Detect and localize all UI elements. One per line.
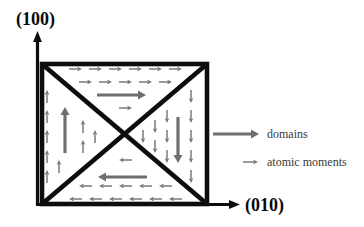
atomic-moment-arrow xyxy=(119,80,132,84)
atomic-moment-arrow xyxy=(79,80,92,84)
atomic-moment-arrow xyxy=(165,110,169,123)
atomic-moment-arrow xyxy=(57,160,61,173)
atomic-moment-arrow xyxy=(119,106,132,110)
atomic-moment-arrow xyxy=(89,197,102,201)
atomic-moment-arrow xyxy=(139,184,152,188)
atomic-moment-arrow xyxy=(149,67,162,71)
domain-direction-arrow xyxy=(98,173,147,182)
magnetic-domain-diagram: (100) (010) domains atomic moments xyxy=(0,0,364,227)
atomic-moment-arrow xyxy=(189,110,193,123)
atomic-moment-arrow xyxy=(159,184,172,188)
atomic-moment-arrow xyxy=(79,184,92,188)
atomic-moment-arrow xyxy=(153,140,157,153)
atomic-moment-arrow xyxy=(81,140,85,153)
axis-010-arrow xyxy=(36,200,240,209)
atomic-moment-arrow xyxy=(119,184,132,188)
atomic-moment-arrow xyxy=(89,67,102,71)
atomic-moment-arrow xyxy=(189,150,193,163)
atomic-moment-arrow xyxy=(99,80,112,84)
atomic-moment-arrow xyxy=(81,120,85,133)
atomic-moment-arrow xyxy=(45,170,49,183)
atomic-moment-arrow xyxy=(93,130,97,143)
atomic-moment-arrow xyxy=(129,197,142,201)
atomic-moment-arrow xyxy=(119,158,132,162)
atomic-moment-arrow xyxy=(169,197,182,201)
atomic-moment-arrow xyxy=(153,120,157,133)
atomic-moment-arrow xyxy=(141,130,145,143)
atomic-moment-arrow xyxy=(109,67,122,71)
figure-canvas: (100) (010) domains atomic moments xyxy=(0,0,364,227)
domain-direction-arrow xyxy=(174,117,183,163)
legend-label-domains: domains xyxy=(267,127,308,141)
atomic-moment-arrow xyxy=(149,197,162,201)
domain-direction-arrow xyxy=(61,107,70,153)
atomic-moment-arrow xyxy=(159,80,172,84)
atomic-moment-arrow xyxy=(189,90,193,103)
atomic-moment-arrow xyxy=(109,197,122,201)
legend-domains-arrow-icon xyxy=(213,130,259,139)
atomic-moment-arrow xyxy=(45,150,49,163)
domain-structure-outline xyxy=(42,64,207,204)
atomic-moment-arrow xyxy=(189,130,193,143)
atomic-moment-arrow xyxy=(165,150,169,163)
atomic-moment-arrow xyxy=(45,110,49,123)
axis-label-100: (100) xyxy=(16,9,55,30)
atomic-moment-arrow xyxy=(45,90,49,103)
atomic-moment-arrow xyxy=(169,67,182,71)
atomic-moment-arrow xyxy=(165,130,169,143)
legend-atomic-moments-arrow-icon xyxy=(243,160,258,164)
domain-direction-arrow xyxy=(97,91,146,100)
atomic-moment-arrow xyxy=(69,67,82,71)
axis-label-010: (010) xyxy=(245,195,284,216)
atomic-moment-arrow xyxy=(139,80,152,84)
atomic-moment-arrow xyxy=(45,130,49,143)
atomic-moment-arrow xyxy=(189,170,193,183)
atomic-moment-arrow xyxy=(99,184,112,188)
legend-label-atomic-moments: atomic moments xyxy=(267,155,347,169)
atomic-moment-arrow xyxy=(129,67,142,71)
atomic-moment-arrow xyxy=(69,197,82,201)
legend xyxy=(213,130,259,165)
